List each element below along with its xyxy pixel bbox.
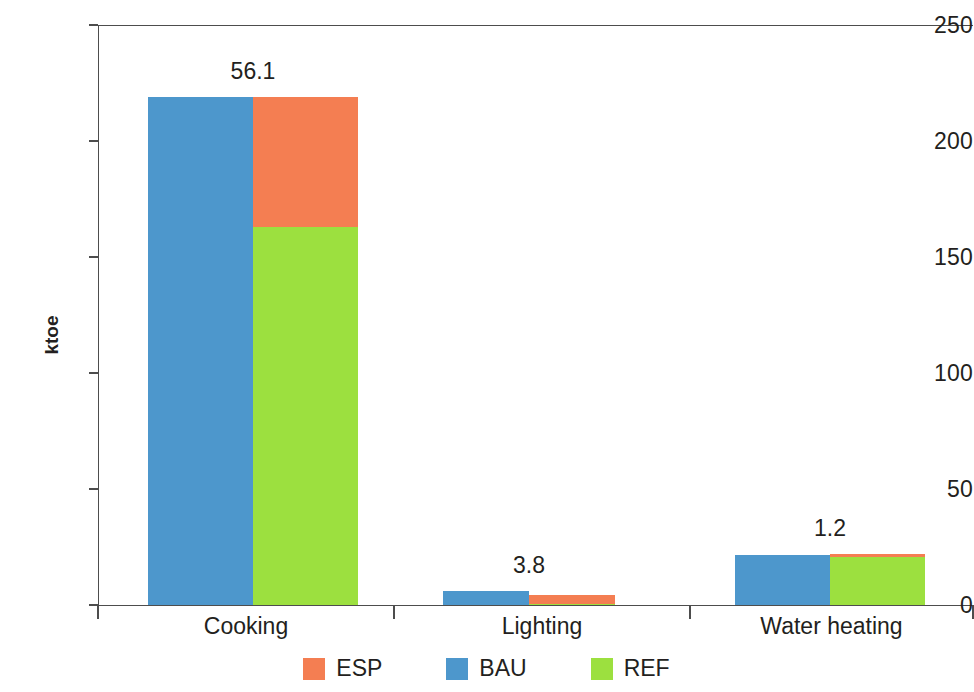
y-axis-tick [89, 140, 98, 141]
y-axis-tick [89, 24, 98, 25]
y-axis-tick-label: 150 [901, 244, 973, 271]
y-axis-line [98, 25, 99, 605]
top-gridline [98, 25, 973, 26]
bar-ref-1 [529, 604, 615, 605]
legend-item-bau[interactable]: BAU [446, 655, 526, 682]
y-axis-tick-label: 250 [901, 12, 973, 39]
legend-item-ref[interactable]: REF [591, 655, 670, 682]
bar-ref-2 [830, 557, 925, 605]
legend-item-esp[interactable]: ESP [303, 655, 382, 682]
x-axis-category-label: Cooking [98, 613, 394, 640]
x-axis-category-label: Water heating [690, 613, 973, 640]
y-axis-tick-label: 50 [901, 476, 973, 503]
y-axis-tick-label: 100 [901, 360, 973, 387]
y-axis-tick [89, 256, 98, 257]
y-axis-tick [89, 488, 98, 489]
bar-data-label: 1.2 [814, 515, 846, 542]
legend-label: REF [624, 655, 670, 682]
legend-swatch-icon [446, 658, 468, 680]
legend-label: ESP [336, 655, 382, 682]
legend-label: BAU [479, 655, 526, 682]
bar-data-label: 3.8 [513, 552, 545, 579]
y-axis-tick-label: 200 [901, 128, 973, 155]
y-axis-title: ktoe [41, 275, 63, 395]
bar-ref-0 [253, 227, 358, 605]
bar-bau-0 [148, 97, 253, 605]
bar-bau-2 [735, 555, 830, 605]
legend-swatch-icon [303, 658, 325, 680]
x-axis-category-label: Lighting [394, 613, 690, 640]
bar-bau-1 [443, 591, 529, 605]
legend-swatch-icon [591, 658, 613, 680]
chart-legend: ESPBAUREF [0, 655, 973, 682]
bar-data-label: 56.1 [231, 58, 276, 85]
y-axis-tick [89, 372, 98, 373]
